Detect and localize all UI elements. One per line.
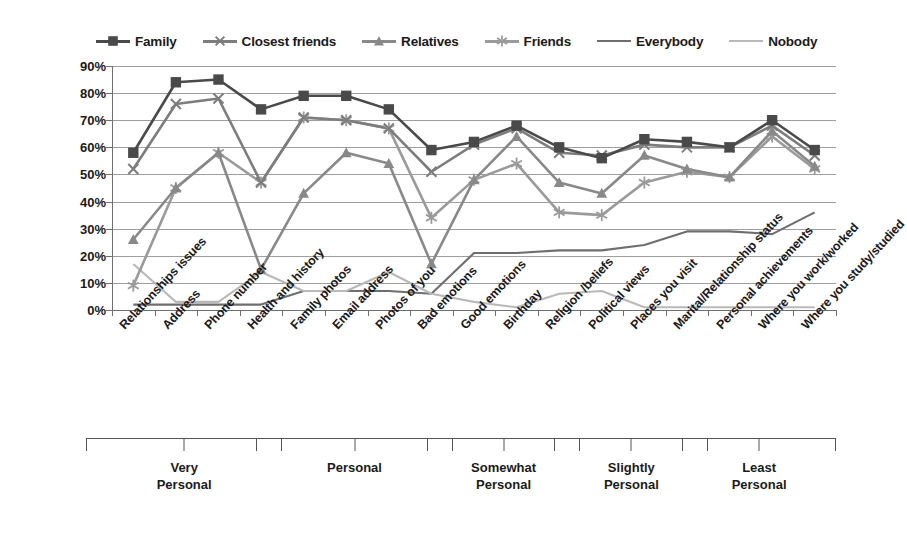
bracket-left-end [86,438,87,451]
legend-label: Nobody [768,34,817,49]
y-tick-label: 50% [80,167,106,182]
group-bracket: VeryPersonal [86,438,282,460]
bracket-pointer [759,438,760,451]
group-label-line: Least [682,460,836,477]
x-tick-mark [836,310,837,316]
x-tick-mark [495,310,496,316]
legend-marker-star-icon [485,34,519,48]
y-tick-label: 30% [80,221,106,236]
group-label-line: Personal [682,477,836,494]
legend-label: Friends [524,34,571,49]
legend-marker-none-icon [597,34,631,48]
bracket-left-end [682,438,683,451]
legend-label: Family [135,34,177,49]
y-tick-mark [106,202,113,203]
group-label: VeryPersonal [86,460,282,493]
y-tick-mark [106,174,113,175]
group-label-line: Very [86,460,282,477]
y-tick-mark [106,229,113,230]
x-tick-mark [325,310,326,316]
legend-item-family[interactable]: Family [96,34,177,49]
group-label-line: Personal [256,460,452,477]
x-tick-mark [282,310,283,316]
group-bracket: Personal [256,438,452,460]
x-axis-labels: Relationships issuesAddressPhone numberH… [0,310,860,440]
x-tick-mark [410,310,411,316]
legend-marker-x-icon [203,34,237,48]
y-tick-mark [106,283,113,284]
legend-label: Relatives [401,34,459,49]
legend-marker-none-icon [729,34,763,48]
x-tick-mark [155,310,156,316]
bracket-pointer [354,438,355,451]
y-tick-mark [106,256,113,257]
bracket-left-end [427,438,428,451]
legend-item-closest-friends[interactable]: Closest friends [203,34,337,49]
bracket-pointer [631,438,632,451]
bracket-pointer [184,438,185,451]
x-tick-mark [666,310,667,316]
x-tick-mark [368,310,369,316]
y-tick-label: 80% [80,86,106,101]
legend-marker-triangle-icon [362,34,396,48]
legend-item-nobody[interactable]: Nobody [729,34,817,49]
bracket-right-end [835,438,836,451]
x-tick-mark [112,310,113,316]
y-axis-labels: 0%10%20%30%40%50%60%70%80%90% [54,66,106,310]
y-tick-label: 60% [80,140,106,155]
series-line-relatives [133,131,814,269]
x-tick-mark [197,310,198,316]
group-label-line: Personal [86,477,282,494]
y-tick-label: 10% [80,275,106,290]
y-tick-label: 90% [80,59,106,74]
y-tick-label: 20% [80,248,106,263]
legend-label: Closest friends [242,34,337,49]
legend-label: Everybody [636,34,703,49]
legend-item-friends[interactable]: Friends [485,34,571,49]
x-tick-mark [538,310,539,316]
x-tick-mark [708,310,709,316]
legend-marker-square-icon [96,34,130,48]
group-label: Personal [256,460,452,477]
y-tick-label: 70% [80,113,106,128]
y-tick-mark [106,120,113,121]
y-tick-mark [106,66,113,67]
group-label: LeastPersonal [682,460,836,493]
legend-item-relatives[interactable]: Relatives [362,34,459,49]
y-tick-label: 40% [80,194,106,209]
y-tick-mark [106,147,113,148]
y-tick-mark [106,93,113,94]
x-tick-mark [751,310,752,316]
group-brackets: VeryPersonalPersonalSomewhatPersonalSlig… [0,438,860,551]
x-tick-mark [453,310,454,316]
x-tick-mark [623,310,624,316]
group-bracket: LeastPersonal [682,438,836,460]
bracket-left-end [256,438,257,451]
bracket-left-end [554,438,555,451]
legend-item-everybody[interactable]: Everybody [597,34,703,49]
bracket-pointer [503,438,504,451]
chart-legend: FamilyClosest friendsRelativesFriendsEve… [96,28,852,54]
x-tick-mark [240,310,241,316]
x-tick-mark [793,310,794,316]
x-tick-mark [580,310,581,316]
